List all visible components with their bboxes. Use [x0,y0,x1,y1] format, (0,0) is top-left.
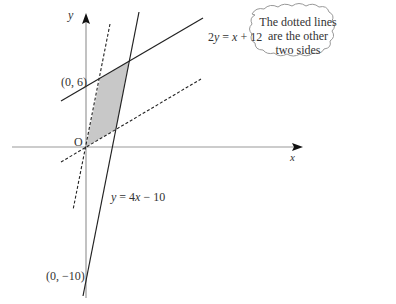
dashed-line-shallow [61,79,201,162]
equation-text: y = 4x − 10 [111,190,165,204]
callout-line-3: two sides [244,43,352,57]
callout-line-2: are the other [244,29,352,43]
point-label-0-neg10: (0, −10) [46,270,85,282]
origin-label: O [74,136,83,148]
x-axis-label: x [290,152,295,163]
equation-label-4x: y = 4x − 10 [111,191,165,203]
callout-line-1: The dotted lines [244,15,352,29]
point-label-0-6: (0, 6) [61,76,87,88]
callout-text: The dotted lines are the other two sides [244,15,352,57]
y-axis-label: y [68,9,73,21]
line-y-eq-4x-minus-10 [83,12,139,296]
